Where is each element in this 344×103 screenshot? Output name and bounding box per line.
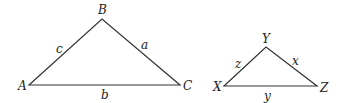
vertex-b-label: B: [97, 3, 107, 17]
triangles-diagram: A B C c a b X Y Z z x y: [0, 0, 344, 103]
triangle-abc-shape: [29, 19, 180, 85]
vertex-x-label: X: [212, 80, 222, 94]
side-c-label: c: [56, 42, 63, 56]
vertex-c-label: C: [183, 79, 192, 93]
vertex-a-label: A: [17, 79, 27, 93]
side-a-label: a: [141, 38, 148, 52]
triangle-abc: A B C c a b: [17, 3, 192, 102]
triangle-xyz: X Y Z z x y: [212, 32, 329, 103]
side-y-label: y: [263, 89, 271, 103]
vertex-y-label: Y: [262, 32, 271, 46]
side-b-label: b: [101, 88, 109, 102]
side-z-label: z: [234, 57, 242, 71]
vertex-z-label: Z: [319, 81, 329, 95]
side-x-label: x: [292, 54, 299, 68]
